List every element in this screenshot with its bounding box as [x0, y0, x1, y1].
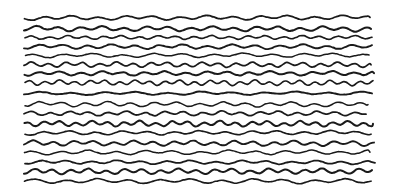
wavy-line-6	[24, 62, 371, 67]
wavy-line-10	[25, 101, 368, 107]
wavy-line-8	[25, 80, 373, 86]
wavy-line-2	[24, 26, 371, 32]
wavy-line-9	[24, 92, 372, 96]
wavy-line-11	[24, 111, 366, 116]
wavy-line-17	[24, 168, 372, 174]
wavy-line-12	[25, 121, 374, 127]
wavy-line-15	[25, 150, 371, 155]
wavy-line-14	[24, 140, 374, 146]
wavy-line-1	[25, 15, 371, 20]
wavy-line-4	[24, 44, 372, 49]
wavy-lines-group	[0, 0, 400, 194]
sketch-canvas	[0, 0, 400, 194]
wavy-line-7	[25, 71, 375, 76]
wavy-line-5	[26, 53, 370, 58]
wavy-line-18	[25, 179, 372, 184]
wavy-line-16	[25, 160, 375, 164]
wavy-line-13	[25, 130, 371, 135]
wavy-line-3	[25, 35, 372, 39]
